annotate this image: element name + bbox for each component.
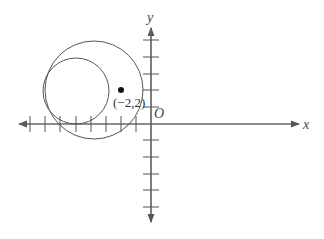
- point-marker: [118, 87, 124, 93]
- origin-label: O: [154, 106, 164, 121]
- coordinate-diagram: (−2,2) x y O: [0, 0, 324, 239]
- point-label: (−2,2): [113, 95, 145, 110]
- small-circle: [43, 58, 109, 124]
- x-axis-label: x: [302, 117, 310, 132]
- y-axis-label: y: [145, 10, 154, 25]
